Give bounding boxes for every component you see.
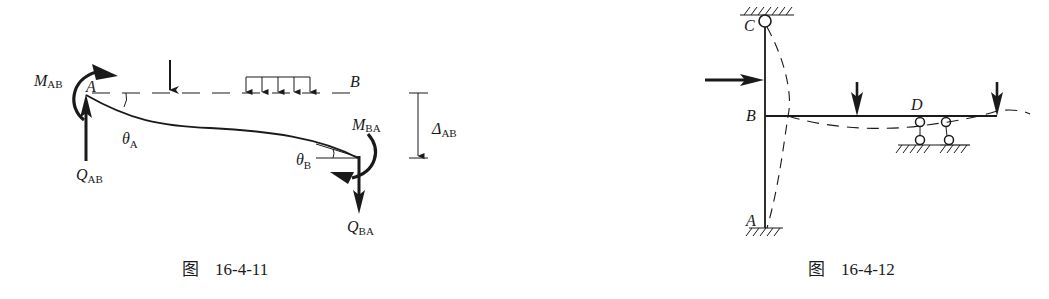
label-delta-ab: ΔAB <box>431 120 457 139</box>
caption-16-4-12: 图16-4-12 <box>808 260 895 279</box>
label-d: D <box>910 96 923 113</box>
deflected-beam-dashed <box>788 110 1030 128</box>
label-b: B <box>746 107 756 124</box>
label-m-ba: MBA <box>351 116 381 134</box>
figure-16-4-11: MAB A B θA θB MBA QAB QBA ΔAB 图16-4-11 <box>33 60 457 279</box>
theta-b-tangent <box>316 144 358 157</box>
theta-b-arc <box>333 149 334 158</box>
label-c: C <box>744 17 755 34</box>
diagram-canvas: MAB A B θA θB MBA QAB QBA ΔAB 图16-4-11 <box>0 0 1049 299</box>
label-q-ba: QBA <box>347 218 374 237</box>
label-m-ab: MAB <box>33 72 63 90</box>
distributed-load <box>246 77 310 92</box>
deflected-beam <box>86 95 358 158</box>
figure-16-4-12: C B A D 图16-4-12 <box>705 7 1030 279</box>
label-a: A <box>85 78 96 95</box>
caption-16-4-11: 图16-4-11 <box>182 260 268 279</box>
label-a: A <box>745 212 756 229</box>
deflected-column-dashed <box>767 27 789 228</box>
label-theta-a: θA <box>122 130 138 150</box>
theta-a-arc <box>124 93 127 107</box>
moment-ba-arrowhead <box>330 172 354 184</box>
moment-ab-arrowhead <box>92 64 118 80</box>
label-b: B <box>350 73 360 90</box>
fixed-support-a <box>746 228 783 236</box>
label-q-ab: QAB <box>76 166 103 185</box>
label-theta-b: θB <box>296 151 311 171</box>
link-supports-d <box>896 118 970 154</box>
